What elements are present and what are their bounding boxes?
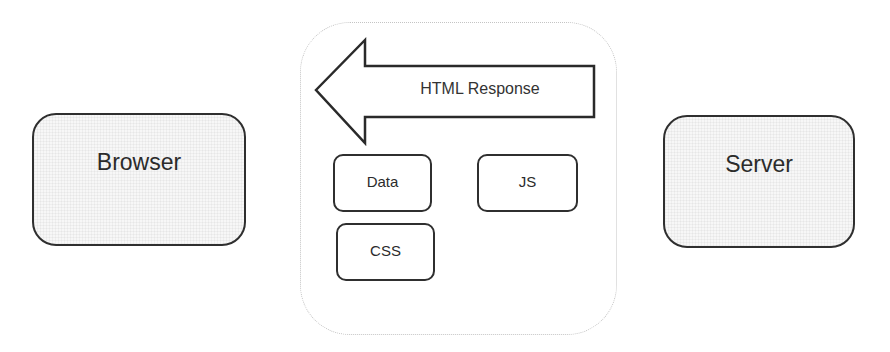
css-node: CSS bbox=[336, 223, 435, 281]
js-node: JS bbox=[477, 154, 578, 212]
arrow-label: HTML Response bbox=[400, 80, 560, 98]
server-node: Server bbox=[663, 115, 855, 248]
js-label: JS bbox=[519, 173, 537, 190]
data-label: Data bbox=[367, 173, 399, 190]
server-label: Server bbox=[725, 151, 793, 178]
browser-node: Browser bbox=[32, 113, 246, 246]
css-label: CSS bbox=[370, 242, 401, 259]
data-node: Data bbox=[333, 154, 432, 212]
browser-label: Browser bbox=[97, 149, 181, 176]
